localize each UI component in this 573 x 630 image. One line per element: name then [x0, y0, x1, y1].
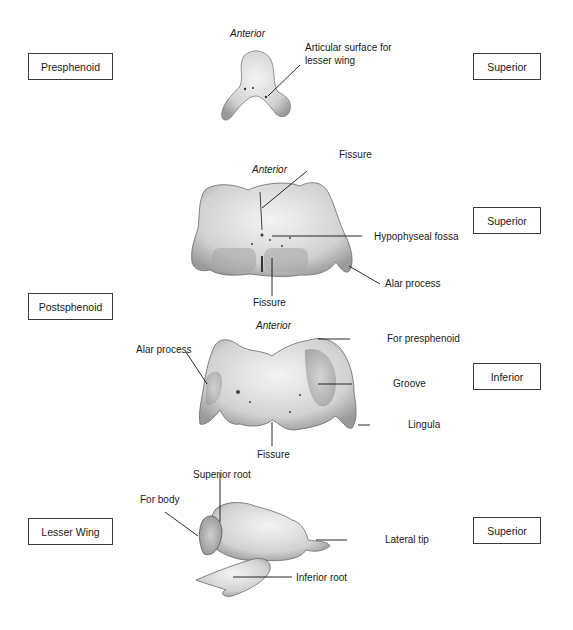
superior-root-label: Superior root — [193, 469, 251, 481]
lesser-wing-box: Lesser Wing — [28, 518, 113, 545]
articular-surface-label-line1: Articular surface for — [305, 42, 392, 54]
leader-alar-2 — [186, 352, 207, 384]
lingula-label: Lingula — [408, 419, 440, 431]
hypophyseal-fossa-label: Hypophyseal fossa — [374, 231, 459, 243]
anterior-label-1: Anterior — [230, 28, 265, 40]
anterior-label-2: Anterior — [252, 164, 287, 176]
leader-alar-1 — [349, 266, 380, 284]
alar-process-label-1: Alar process — [385, 278, 441, 290]
sphenoid-figure: Presphenoid Postsphenoid Lesser Wing Sup… — [0, 0, 573, 630]
fissure-bottom-label-2: Fissure — [257, 449, 290, 461]
anterior-label-3: Anterior — [256, 320, 291, 332]
presphenoid-bone — [222, 51, 291, 120]
leader-for-body — [165, 512, 198, 536]
view-inferior-box: Inferior — [473, 363, 541, 390]
inferior-root-label: Inferior root — [296, 572, 347, 584]
view-superior-1-box: Superior — [473, 53, 541, 80]
articular-surface-label-line2: lesser wing — [305, 55, 355, 67]
for-presphenoid-label: For presphenoid — [387, 333, 460, 345]
alar-process-label-2: Alar process — [136, 344, 192, 356]
view-superior-2-box: Superior — [473, 207, 541, 234]
postsphenoid-box: Postsphenoid — [28, 293, 113, 320]
for-body-label: For body — [140, 494, 179, 506]
lateral-tip-label: Lateral tip — [385, 534, 429, 546]
presphenoid-box: Presphenoid — [28, 53, 113, 80]
fissure-top-label: Fissure — [339, 149, 372, 161]
view-superior-3-box: Superior — [473, 517, 541, 544]
fissure-bottom-label-1: Fissure — [253, 297, 286, 309]
groove-label: Groove — [393, 378, 426, 390]
